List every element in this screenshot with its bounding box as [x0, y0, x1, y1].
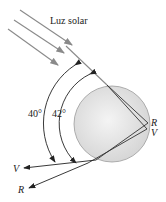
- water-droplet: [74, 86, 150, 162]
- internal-violet-label: V: [151, 127, 159, 138]
- sunlight-label: Luz solar: [50, 15, 88, 26]
- rainbow-refraction-diagram: Luz solar 40° 42° R V V R: [0, 0, 166, 202]
- exit-rays: [24, 160, 96, 188]
- angle-42-label: 42°: [52, 108, 66, 119]
- exit-red-label: R: [17, 184, 24, 195]
- angle-40-label: 40°: [28, 108, 42, 119]
- exit-violet-label: V: [13, 163, 21, 174]
